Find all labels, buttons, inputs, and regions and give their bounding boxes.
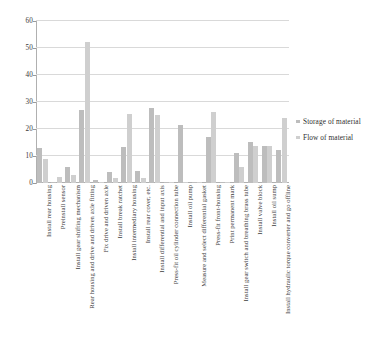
x-axis-label-text: Install rear cover, etc. xyxy=(144,185,151,243)
bar xyxy=(164,182,169,183)
bar xyxy=(37,148,42,183)
x-axis-label-text: Press-fit front-housing xyxy=(214,185,221,246)
bar xyxy=(220,182,225,183)
bar-group xyxy=(219,21,233,183)
bar xyxy=(282,118,287,183)
bar xyxy=(121,147,126,183)
bar-group xyxy=(92,21,106,183)
bar-group xyxy=(78,21,92,183)
x-axis-label: Print permanent mark xyxy=(228,185,235,244)
bar-group xyxy=(148,21,162,183)
x-axis-label-text: Print permanent mark xyxy=(228,185,235,244)
x-axis-label: Rear housing and drive and driven axle f… xyxy=(88,185,95,309)
bar xyxy=(262,146,267,183)
bar xyxy=(155,115,160,183)
x-axis-label: Install gear switch and breathing brass … xyxy=(242,185,249,301)
x-axis-label-text: Measure and select differential gasket xyxy=(200,185,207,287)
bar xyxy=(234,153,239,183)
x-axis-label: Install rear housing xyxy=(45,185,52,237)
bar-group xyxy=(106,21,120,183)
bar-group xyxy=(275,21,289,183)
bar xyxy=(93,180,98,183)
x-axis-label: Install gear shifting mechanism xyxy=(74,185,81,270)
y-tick-mark-0 xyxy=(33,183,36,184)
x-axis-label-text: Rear housing and drive and driven axle f… xyxy=(88,185,95,309)
bar xyxy=(276,150,281,183)
x-axis-label-text: Preinstall sensor xyxy=(59,185,66,229)
bar-group xyxy=(177,21,191,183)
x-axis-label: Preinstall sensor xyxy=(59,185,66,229)
x-axis-label-text: Fix drive and driven axle xyxy=(102,185,109,253)
x-axis-label-text: Install gear switch and breathing brass … xyxy=(242,185,249,301)
x-axis-label: Install oil sump xyxy=(270,185,277,227)
bar-group xyxy=(36,21,50,183)
bar xyxy=(57,177,62,183)
x-axis-label: Install hydraulic torque converter and g… xyxy=(284,185,291,314)
bar xyxy=(127,114,132,183)
x-axis-label: Measure and select differential gasket xyxy=(200,185,207,287)
bar xyxy=(253,146,258,183)
x-axis-label-text: Install rear housing xyxy=(45,185,52,237)
y-tick-label-30: 30 xyxy=(0,98,33,106)
bar xyxy=(107,172,112,183)
bar xyxy=(239,167,244,183)
bar-group xyxy=(163,21,177,183)
bar-group xyxy=(205,21,219,183)
bar xyxy=(113,178,118,183)
bar xyxy=(206,137,211,183)
bar xyxy=(225,182,230,183)
legend: Storage of materialFlow of material xyxy=(296,117,376,149)
y-tick-label-40: 40 xyxy=(0,71,33,79)
bar xyxy=(51,182,56,183)
x-axis-label: Install intermediary housing xyxy=(130,185,137,261)
bar xyxy=(267,146,272,183)
bar-group xyxy=(233,21,247,183)
legend-label: Flow of material xyxy=(303,133,353,142)
bar xyxy=(141,178,146,183)
bar-group xyxy=(134,21,148,183)
bar xyxy=(197,182,202,183)
x-axis-label: Fix drive and driven axle xyxy=(102,185,109,253)
y-tick-label-0: 0 xyxy=(0,179,33,187)
x-axis-label-text: Install break ratchet xyxy=(116,185,123,238)
x-axis-label-text: Install differential and input axis xyxy=(158,185,165,273)
bar-group xyxy=(247,21,261,183)
bar xyxy=(211,112,216,183)
bar-group xyxy=(64,21,78,183)
x-axis-label: Press-fit oil cylinder connection tube xyxy=(172,185,179,284)
legend-item[interactable]: Storage of material xyxy=(296,117,376,126)
bar xyxy=(85,42,90,183)
bar xyxy=(183,182,188,183)
y-tick-label-60: 60 xyxy=(0,17,33,25)
x-axis-label: Install differential and input axis xyxy=(158,185,165,273)
bar xyxy=(79,110,84,183)
y-tick-label-50: 50 xyxy=(0,44,33,52)
x-axis-label-text: Install gear shifting mechanism xyxy=(74,185,81,270)
x-axis-label-text: Install intermediary housing xyxy=(130,185,137,261)
legend-item[interactable]: Flow of material xyxy=(296,133,376,142)
bar xyxy=(169,182,174,183)
bar xyxy=(99,182,104,183)
x-axis-category-labels: Install rear housingPreinstall sensorIns… xyxy=(36,185,289,347)
x-axis-label-text: Install hydraulic torque converter and g… xyxy=(284,185,291,314)
bar xyxy=(71,175,76,183)
bar-group xyxy=(191,21,205,183)
y-tick-label-10: 10 xyxy=(0,152,33,160)
x-axis-label-text: Install oil pump xyxy=(186,185,193,228)
bar xyxy=(178,125,183,183)
legend-swatch-icon xyxy=(296,120,300,124)
legend-label: Storage of material xyxy=(303,117,361,126)
bar xyxy=(192,182,197,183)
legend-swatch-icon xyxy=(296,136,300,140)
bar xyxy=(43,159,48,183)
x-axis-label: Install break ratchet xyxy=(116,185,123,238)
x-axis-label: Press-fit front-housing xyxy=(214,185,221,246)
x-axis-label-text: Install oil sump xyxy=(270,185,277,227)
plot-area xyxy=(36,21,289,183)
bar-chart: 0102030405060 Install rear housingPreins… xyxy=(0,0,376,351)
bar-group xyxy=(261,21,275,183)
x-axis-label-text: Install valve block xyxy=(256,185,263,235)
x-axis-label: Install rear cover, etc. xyxy=(144,185,151,243)
y-tick-label-20: 20 xyxy=(0,125,33,133)
x-axis-label: Install oil pump xyxy=(186,185,193,228)
